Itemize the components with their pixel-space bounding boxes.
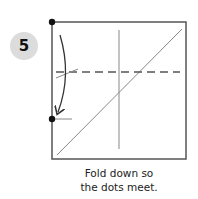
reference-tick (56, 69, 78, 78)
bottom-dot (49, 116, 55, 122)
caption-line-2: the dots meet. (40, 180, 198, 194)
top-dot (49, 19, 55, 25)
fold-arrow-icon (58, 35, 66, 112)
caption-line-1: Fold down so (40, 166, 198, 180)
